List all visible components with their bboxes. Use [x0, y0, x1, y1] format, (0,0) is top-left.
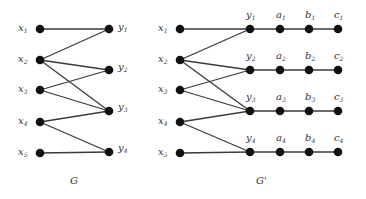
label-y3: y3	[245, 91, 256, 103]
node-a4	[276, 148, 285, 157]
label-y1: y1	[245, 9, 255, 21]
node-b2	[305, 66, 314, 75]
node-b4	[305, 148, 314, 157]
edge-x4-y3	[180, 111, 250, 122]
label-b4: b4	[305, 132, 315, 144]
edge-x2-y2	[40, 60, 109, 70]
node-y1	[105, 25, 114, 34]
node-a1	[276, 25, 285, 34]
label-c2: c2	[334, 50, 344, 62]
label-y2: y2	[245, 50, 256, 62]
graph-g-prime: x1 x2 x3 x4 x5 y1 a1 b1 c1 y2 a2 b2 c2 y…	[158, 9, 344, 186]
node-x2	[176, 56, 185, 65]
label-x5: x5	[158, 146, 168, 158]
label-c1: c1	[334, 9, 343, 21]
node-x1	[36, 25, 45, 34]
label-x5: x5	[18, 146, 28, 158]
node-c3	[334, 107, 343, 116]
edge-x5-y4	[180, 152, 250, 153]
label-x1: x1	[18, 22, 27, 34]
label-x4: x4	[158, 115, 168, 127]
node-y3	[105, 107, 114, 116]
node-c2	[334, 66, 343, 75]
edge-x4-y3	[40, 111, 109, 122]
node-x3	[36, 86, 45, 95]
node-c1	[334, 25, 343, 34]
label-x1: x1	[158, 22, 167, 34]
node-x5	[176, 149, 185, 158]
graph-g-prime-labels: x1 x2 x3 x4 x5 y1 a1 b1 c1 y2 a2 b2 c2 y…	[158, 9, 344, 186]
label-x2: x2	[158, 53, 168, 65]
edge-x2-y2	[180, 60, 250, 70]
label-a2: a2	[276, 50, 286, 62]
label-c4: c4	[334, 132, 344, 144]
node-x3	[176, 86, 185, 95]
node-y4	[105, 148, 114, 157]
edge-x2-y1	[40, 29, 109, 60]
edge-x5-y4	[40, 152, 109, 153]
graph-g: x1 x2 x3 x4 x5 y1 y2 y3 y4 G	[18, 21, 128, 186]
graph-g-prime-nodes	[176, 25, 343, 158]
label-y4: y4	[117, 142, 128, 154]
label-y1: y1	[117, 21, 127, 33]
node-y3	[246, 107, 255, 116]
edge-x2-y3	[40, 60, 109, 111]
node-a3	[276, 107, 285, 116]
label-c3: c3	[334, 91, 344, 103]
edge-x3-y3	[40, 90, 109, 111]
edge-x4-y4	[180, 122, 250, 152]
label-x3: x3	[158, 83, 168, 95]
node-x2	[36, 56, 45, 65]
label-x3: x3	[18, 83, 28, 95]
label-b1: b1	[305, 9, 315, 21]
node-a2	[276, 66, 285, 75]
node-y2	[246, 66, 255, 75]
node-x1	[176, 25, 185, 34]
label-a3: a3	[276, 91, 286, 103]
graph-g-prime-edges	[180, 29, 338, 153]
bipartite-graph-figure: x1 x2 x3 x4 x5 y1 y2 y3 y4 G	[0, 0, 366, 199]
label-x4: x4	[18, 115, 28, 127]
caption-g-prime: G'	[256, 175, 267, 186]
edge-x3-y3	[180, 90, 250, 111]
node-y2	[105, 66, 114, 75]
caption-g: G	[70, 175, 78, 186]
edge-x4-y4	[40, 122, 109, 152]
node-x5	[36, 149, 45, 158]
node-b1	[305, 25, 314, 34]
edge-x2-y3	[180, 60, 250, 111]
node-x4	[36, 118, 45, 127]
label-a4: a4	[276, 132, 286, 144]
node-x4	[176, 118, 185, 127]
label-y2: y2	[117, 61, 128, 73]
label-y4: y4	[245, 132, 256, 144]
edge-x2-y1	[180, 29, 250, 60]
node-y4	[246, 148, 255, 157]
label-b3: b3	[305, 91, 315, 103]
label-a1: a1	[276, 9, 286, 21]
node-c4	[334, 148, 343, 157]
node-b3	[305, 107, 314, 116]
node-y1	[246, 25, 255, 34]
edge-x3-y2	[180, 70, 250, 90]
edge-x3-y2	[40, 70, 109, 90]
label-x2: x2	[18, 53, 28, 65]
graph-g-edges	[40, 29, 109, 153]
label-b2: b2	[305, 50, 315, 62]
label-y3: y3	[117, 101, 128, 113]
